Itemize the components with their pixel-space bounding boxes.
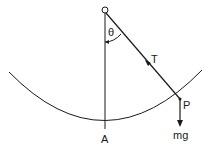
string-OP: [106, 13, 180, 99]
label-bob: P: [183, 99, 190, 111]
weight-arrow-icon: [177, 120, 183, 127]
label-tension: T: [151, 53, 158, 65]
label-lowest-point: A: [101, 133, 109, 145]
label-theta: θ: [108, 26, 114, 38]
pivot-point: [102, 7, 108, 13]
label-weight: mg: [173, 129, 188, 141]
angle-arc-arrow-icon: [105, 40, 109, 44]
pendulum-diagram: θ T P mg A: [0, 0, 208, 147]
